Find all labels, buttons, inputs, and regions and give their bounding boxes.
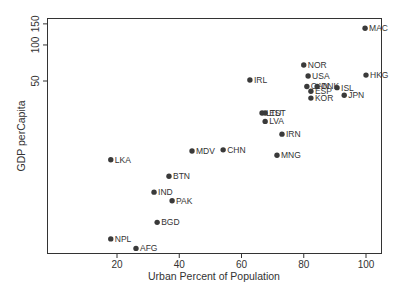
- x-tick-label: 100: [358, 259, 375, 270]
- point-label: PAK: [176, 196, 193, 206]
- point-marker: [279, 131, 284, 136]
- scatter-chart: 20406080100 50100150 MACHKGNORUSACANDNKE…: [0, 0, 407, 291]
- point-marker: [304, 84, 309, 89]
- x-axis: 20406080100: [111, 254, 374, 270]
- point-marker: [305, 73, 310, 78]
- data-point: MNG: [274, 150, 301, 160]
- y-tick-label: 150: [30, 15, 41, 32]
- data-point: HKG: [363, 70, 388, 80]
- point-marker: [108, 157, 113, 162]
- point-marker: [274, 153, 279, 158]
- point-label: NPL: [115, 234, 132, 244]
- x-tick-label: 20: [111, 259, 123, 270]
- point-label: AFG: [140, 243, 157, 253]
- data-point: IRN: [279, 129, 300, 139]
- y-tick-label: 100: [30, 36, 41, 53]
- data-point: NPL: [108, 234, 132, 244]
- point-label: MNG: [281, 150, 301, 160]
- point-marker: [363, 72, 368, 77]
- data-point: BTN: [166, 171, 190, 181]
- data-point: PAK: [169, 196, 192, 206]
- data-point: MDV: [189, 146, 215, 156]
- point-marker: [262, 119, 267, 124]
- point-marker: [108, 236, 113, 241]
- data-point: CHN: [220, 145, 245, 155]
- y-axis-title: GDP perCapita: [15, 100, 27, 171]
- point-label: BTN: [173, 171, 190, 181]
- point-marker: [133, 246, 138, 251]
- point-marker: [262, 110, 267, 115]
- point-label: IRL: [254, 75, 268, 85]
- point-marker: [166, 174, 171, 179]
- point-label: MAC: [369, 23, 388, 33]
- data-point: AFG: [133, 243, 157, 253]
- point-marker: [169, 198, 174, 203]
- point-label: BGD: [161, 217, 179, 227]
- point-label: USA: [312, 71, 330, 81]
- plot-frame: [48, 19, 382, 254]
- x-tick-label: 60: [236, 259, 248, 270]
- point-label: CHN: [227, 145, 245, 155]
- point-label: JPN: [348, 90, 364, 100]
- point-marker: [334, 85, 339, 90]
- point-marker: [362, 26, 367, 31]
- point-marker: [220, 147, 225, 152]
- data-points: MACHKGNORUSACANDNKESPKORISLJPNIRLLTUESTL…: [108, 23, 388, 253]
- point-label: IND: [158, 187, 173, 197]
- point-label: LVA: [269, 116, 284, 126]
- data-point: USA: [305, 71, 330, 81]
- data-point: MAC: [362, 23, 388, 33]
- point-label: MDV: [196, 146, 215, 156]
- data-point: NOR: [301, 60, 327, 70]
- x-tick-label: 40: [174, 259, 186, 270]
- point-label: IRN: [286, 129, 301, 139]
- point-marker: [342, 93, 347, 98]
- point-label: KOR: [315, 93, 333, 103]
- data-point: LKA: [108, 155, 131, 165]
- point-marker: [308, 95, 313, 100]
- point-marker: [308, 89, 313, 94]
- data-point: KOR: [308, 93, 333, 103]
- data-point: BGD: [154, 217, 179, 227]
- point-label: LKA: [115, 155, 131, 165]
- point-marker: [247, 77, 252, 82]
- x-axis-title: Urban Percent of Population: [148, 270, 280, 282]
- point-label: NOR: [308, 60, 327, 70]
- point-marker: [154, 220, 159, 225]
- data-point: IRL: [247, 75, 267, 85]
- point-marker: [301, 62, 306, 67]
- point-marker: [151, 189, 156, 194]
- y-axis: 50100150: [30, 15, 48, 86]
- data-point: IND: [151, 187, 172, 197]
- x-tick-label: 80: [298, 259, 310, 270]
- point-marker: [189, 148, 194, 153]
- y-tick-label: 50: [30, 75, 41, 87]
- point-label: HKG: [370, 70, 388, 80]
